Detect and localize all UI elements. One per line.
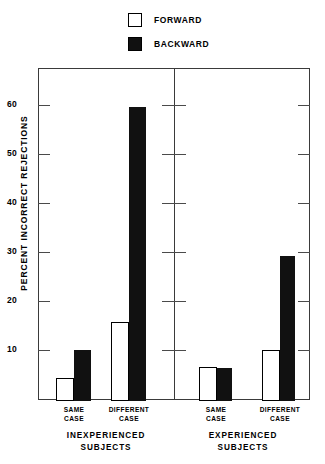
bar-inexperienced-different-backward [129,107,146,401]
y-tick-label-30: 30 [7,246,17,256]
y-tick-60: 60 [0,105,38,106]
y-tick-mark-60-left [38,105,50,106]
y-tick-30: 30 [0,252,38,253]
chart-figure: FORWARD BACKWARD PERCENT INCORRECT REJEC… [0,0,325,464]
bar-experienced-different-forward [262,350,280,401]
y-tick-mark-50-left [38,154,50,155]
x-group-label-experienced-same: SAME CASE [186,405,246,423]
legend-swatch-forward-icon [128,13,142,27]
y-tick-mark-50-mid-left [162,154,174,155]
bar-experienced-same-forward [199,367,217,401]
y-tick-10: 10 [0,350,38,351]
legend-item-backward: BACKWARD [128,34,278,54]
legend-swatch-backward-icon [128,37,142,51]
y-tick-mark-20-left [38,301,50,302]
y-tick-mark-50-right [298,154,310,155]
y-tick-label-20: 20 [7,295,17,305]
y-tick-mark-30-left [38,252,50,253]
x-group-label-experienced-different: DIFFERENT CASE [249,405,311,423]
legend-label-backward: BACKWARD [154,39,209,49]
y-tick-label-40: 40 [7,197,17,207]
bar-inexperienced-same-forward [56,378,74,401]
y-tick-40: 40 [0,203,38,204]
y-tick-mark-40-right [298,203,310,204]
y-tick-mark-50-mid [174,154,186,155]
y-tick-label-10: 10 [7,344,17,354]
y-tick-mark-40-mid [174,203,186,204]
bar-experienced-same-backward [217,368,232,401]
bar-experienced-different-backward [280,256,295,401]
y-tick-mark-10-mid [174,350,186,351]
y-tick-mark-10-mid-left [162,350,174,351]
legend-item-forward: FORWARD [128,10,278,30]
y-tick-label-60: 60 [7,99,17,109]
y-tick-mark-30-mid-left [162,252,174,253]
y-tick-mark-60-mid-left [162,105,174,106]
legend-label-forward: FORWARD [154,15,202,25]
bar-inexperienced-different-forward [111,322,129,401]
y-tick-50: 50 [0,154,38,155]
y-tick-mark-20-mid [174,301,186,302]
panel-title-experienced: EXPERIENCED SUBJECTS [176,430,310,454]
y-tick-mark-40-mid-left [162,203,174,204]
y-tick-mark-30-mid [174,252,186,253]
y-tick-mark-60-right [298,105,310,106]
y-tick-mark-40-left [38,203,50,204]
y-tick-mark-10-left [38,350,50,351]
y-tick-20: 20 [0,301,38,302]
x-group-label-inexperienced-same: SAME CASE [44,405,104,423]
y-tick-mark-20-right [298,301,310,302]
y-tick-mark-20-mid-left [162,301,174,302]
y-tick-mark-60-mid [174,105,186,106]
x-group-label-inexperienced-different: DIFFERENT CASE [98,405,160,423]
y-tick-label-50: 50 [7,148,17,158]
bar-inexperienced-same-backward [74,350,91,401]
panel-title-inexperienced: INEXPERIENCED SUBJECTS [38,430,174,454]
y-tick-mark-30-right [298,252,310,253]
y-tick-mark-10-right [298,350,310,351]
chart-legend: FORWARD BACKWARD [128,10,278,58]
